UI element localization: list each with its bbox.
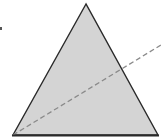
stray-mark	[0, 27, 2, 30]
triangle	[13, 4, 158, 135]
triangle-diagram	[0, 0, 161, 138]
